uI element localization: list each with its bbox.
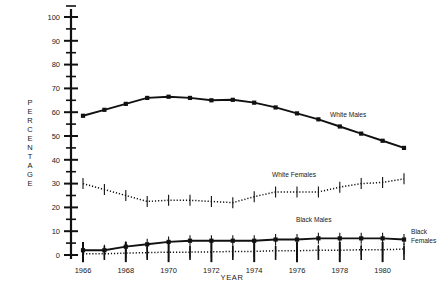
x-axis-title: YEAR <box>221 273 244 282</box>
x-tick-label: 1972 <box>203 266 220 275</box>
y-tick-label: 60 <box>52 108 60 117</box>
data-point-marker <box>124 102 128 106</box>
y-tick-label: 80 <box>52 60 60 69</box>
y-axis-title-letter: E <box>27 107 32 116</box>
data-point-marker <box>188 239 192 243</box>
data-point-marker <box>295 111 299 115</box>
data-point-marker <box>381 236 385 240</box>
x-tick-label: 1966 <box>75 266 92 275</box>
y-axis-title-letter: G <box>27 170 33 179</box>
data-point-marker <box>402 237 406 241</box>
x-tick-label: 1978 <box>331 266 348 275</box>
series-label-white-females: White Females <box>272 171 317 178</box>
data-point-marker <box>231 239 235 243</box>
data-point-marker <box>145 96 149 100</box>
y-tick-label: 20 <box>52 203 60 212</box>
y-tick-label: 10 <box>52 227 60 236</box>
y-tick-label: 70 <box>52 84 60 93</box>
y-axis-title-letter: T <box>28 152 33 161</box>
data-point-marker <box>209 98 213 102</box>
y-tick-label: 0 <box>56 251 60 260</box>
data-point-marker <box>359 132 363 136</box>
line-chart: 0102030405060708090100 PERCENTAGE 196619… <box>0 0 441 293</box>
y-axis-title: PERCENTAGE <box>27 98 33 188</box>
y-tick-label: 40 <box>52 156 60 165</box>
data-point-marker <box>145 242 149 246</box>
data-point-marker <box>81 114 85 118</box>
data-point-marker <box>252 101 256 105</box>
y-tick-label: 30 <box>52 179 60 188</box>
data-point-marker <box>338 124 342 128</box>
chart-container: 0102030405060708090100 PERCENTAGE 196619… <box>0 0 441 293</box>
data-point-marker <box>338 236 342 240</box>
y-axis-title-letter: E <box>27 134 32 143</box>
x-tick-label: 1968 <box>117 266 134 275</box>
x-tick-label: 1980 <box>374 266 391 275</box>
data-point-marker <box>359 236 363 240</box>
data-point-marker <box>381 139 385 143</box>
data-point-marker <box>402 146 406 150</box>
data-point-marker <box>274 105 278 109</box>
x-tick-label: 1976 <box>289 266 306 275</box>
x-tick-label: 1974 <box>246 266 263 275</box>
data-point-marker <box>102 108 106 112</box>
y-axis-title-letter: R <box>27 116 33 125</box>
data-point-marker <box>231 98 235 102</box>
y-tick-label: 90 <box>52 37 60 46</box>
y-tick-label: 100 <box>47 13 60 22</box>
series-label-black-males: Black Males <box>296 216 332 223</box>
series-label-white-males: White Males <box>330 111 367 118</box>
series-label-black-females: Black <box>411 228 428 235</box>
y-axis-title-letter: A <box>27 161 32 170</box>
series-label-black-females-line2: Females <box>411 237 437 244</box>
data-point-marker <box>316 236 320 240</box>
data-point-marker <box>167 95 171 99</box>
x-tick-label: 1970 <box>160 266 177 275</box>
data-point-marker <box>274 237 278 241</box>
data-point-marker <box>316 117 320 121</box>
y-axis-title-letter: C <box>27 125 33 134</box>
data-point-marker <box>295 237 299 241</box>
y-axis-title-letter: E <box>27 179 32 188</box>
y-axis-title-letter: P <box>27 98 32 107</box>
data-point-marker <box>209 239 213 243</box>
y-tick-label: 50 <box>52 132 60 141</box>
y-axis-title-letter: N <box>27 143 32 152</box>
data-point-marker <box>252 239 256 243</box>
data-point-marker <box>167 240 171 244</box>
data-point-marker <box>188 96 192 100</box>
